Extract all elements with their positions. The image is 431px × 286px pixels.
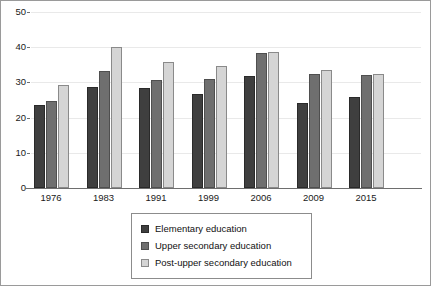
gridline-50 [31, 12, 421, 13]
y-tick-label-40: 40 [4, 42, 26, 52]
legend-item-2: Post-upper secondary education [141, 255, 303, 271]
bar-1999-series-0 [192, 94, 203, 188]
y-tick-mark-50 [27, 12, 30, 13]
y-tick-label-50: 50 [4, 7, 26, 17]
bar-2009-series-0 [297, 103, 308, 188]
bar-2006-series-1 [256, 53, 267, 188]
legend-swatch-icon-2 [141, 259, 149, 267]
legend-label-0: Elementary education [155, 224, 247, 234]
x-tick-label-1976: 1976 [25, 193, 77, 203]
x-tick-label-2015: 2015 [340, 193, 392, 203]
y-tick-label-10: 10 [4, 148, 26, 158]
x-tick-label-1991: 1991 [130, 193, 182, 203]
x-tick-label-1983: 1983 [78, 193, 130, 203]
legend-item-0: Elementary education [141, 221, 303, 237]
y-tick-mark-40 [27, 47, 30, 48]
x-axis-line [25, 188, 422, 189]
legend-label-2: Post-upper secondary education [155, 258, 292, 268]
bar-1983-series-2 [111, 47, 122, 188]
y-tick-label-30: 30 [4, 78, 26, 88]
y-tick-mark-30 [27, 82, 30, 83]
bar-chart-figure: 01020304050 1976198319911999200620092015… [0, 0, 431, 286]
bar-1976-series-0 [34, 105, 45, 188]
legend-item-1: Upper secondary education [141, 238, 303, 254]
bar-1983-series-0 [87, 87, 98, 188]
chart-legend: Elementary educationUpper secondary educ… [131, 213, 312, 279]
bar-1991-series-0 [139, 88, 150, 188]
y-tick-label-20: 20 [4, 113, 26, 123]
y-tick-mark-0 [27, 188, 30, 189]
bar-1991-series-1 [151, 80, 162, 188]
bar-2015-series-2 [373, 74, 384, 188]
bar-2009-series-1 [309, 74, 320, 188]
y-tick-mark-10 [27, 153, 30, 154]
x-tick-label-2006: 2006 [235, 193, 287, 203]
bar-1983-series-1 [99, 71, 110, 188]
y-tick-mark-20 [27, 118, 30, 119]
bar-1976-series-1 [46, 101, 57, 188]
x-tick-label-1999: 1999 [183, 193, 235, 203]
y-tick-label-0: 0 [4, 183, 26, 193]
gridline-40 [31, 47, 421, 48]
plot-area [31, 12, 421, 188]
x-tick-label-2009: 2009 [288, 193, 340, 203]
y-axis-tick-labels: 01020304050 [1, 12, 26, 188]
legend-label-1: Upper secondary education [155, 241, 271, 251]
bar-2006-series-2 [268, 52, 279, 188]
bar-2015-series-1 [361, 75, 372, 188]
bar-2009-series-2 [321, 70, 332, 188]
bar-2015-series-0 [349, 97, 360, 188]
bar-1999-series-2 [216, 66, 227, 188]
legend-swatch-icon-1 [141, 242, 149, 250]
bar-1999-series-1 [204, 79, 215, 188]
bar-2006-series-0 [244, 76, 255, 188]
bar-1976-series-2 [58, 85, 69, 188]
bar-1991-series-2 [163, 62, 174, 188]
legend-swatch-icon-0 [141, 225, 149, 233]
